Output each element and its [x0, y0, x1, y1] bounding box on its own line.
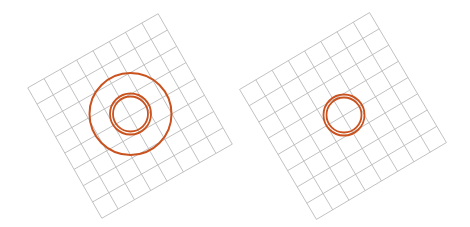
grid-line [370, 13, 447, 143]
grid-line [288, 94, 418, 171]
grid-line [142, 23, 216, 153]
grid-line [353, 22, 430, 152]
grid-line [316, 143, 446, 220]
grid-line [93, 128, 223, 202]
grid [28, 14, 233, 219]
grid-line [337, 32, 414, 162]
outer-circle [90, 73, 172, 155]
grid-line [307, 126, 437, 203]
grid [240, 13, 447, 220]
diagram-canvas [0, 0, 470, 227]
grid-line [65, 79, 195, 153]
grid-line [297, 110, 427, 187]
double-ring-outer [110, 94, 151, 135]
double-ring-inner [113, 97, 148, 132]
grid-line [278, 78, 408, 155]
grid-line [102, 144, 232, 218]
right-panel [240, 13, 447, 220]
left-panel [28, 14, 233, 219]
